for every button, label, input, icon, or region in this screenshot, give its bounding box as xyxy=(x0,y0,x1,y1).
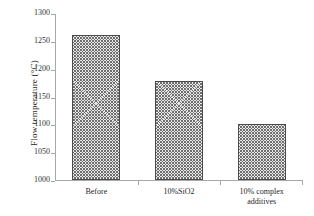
y-tick-mark xyxy=(51,14,55,15)
y-tick-label: 1050 xyxy=(34,147,50,156)
y-axis-title: Flow temperature (°C) xyxy=(29,23,39,183)
x-tick-mark xyxy=(220,181,221,185)
y-tick-mark xyxy=(51,42,55,43)
bar xyxy=(72,35,120,180)
x-category-label: 10%SiO2 xyxy=(138,187,221,197)
y-axis-line xyxy=(55,14,56,181)
bar xyxy=(155,81,203,180)
y-tick-mark xyxy=(51,181,55,182)
x-tick-mark xyxy=(138,181,139,185)
y-tick-mark xyxy=(51,125,55,126)
y-tick-label: 1100 xyxy=(34,119,50,128)
x-tick-mark xyxy=(302,181,303,185)
y-tick-mark xyxy=(51,153,55,154)
x-category-label: Before xyxy=(55,187,138,197)
y-tick-label: 1200 xyxy=(34,64,50,73)
y-tick-label: 1150 xyxy=(34,92,50,101)
y-tick-label: 1250 xyxy=(34,36,50,45)
x-axis-line xyxy=(55,180,303,181)
plot-area: 1000105011001150120012501300 Before10%Si… xyxy=(55,14,303,181)
y-tick-mark xyxy=(51,70,55,71)
x-category-label: 10% complex additives xyxy=(220,187,303,207)
y-tick-label: 1300 xyxy=(34,8,50,17)
y-tick-mark xyxy=(51,98,55,99)
y-tick-label: 1000 xyxy=(34,175,50,184)
bar xyxy=(238,124,286,180)
bar-chart-figure: Flow temperature (°C) 100010501100115012… xyxy=(0,0,314,216)
